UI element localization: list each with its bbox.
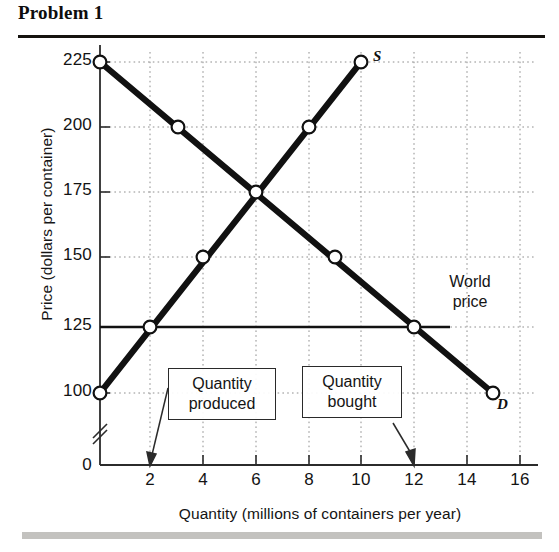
marker-supply-0-100: [94, 387, 107, 400]
figure-page: Problem 1: [0, 0, 559, 552]
supply-curve-label: S: [373, 48, 381, 65]
footer-bar: [22, 532, 542, 539]
demand-curve: [100, 62, 493, 393]
x-tick-2: 2: [133, 470, 167, 490]
quantity-produced-line2: produced: [175, 394, 269, 414]
marker-supply-4-150: [197, 251, 210, 264]
marker-demand-3-200: [172, 121, 185, 134]
marker-demand-9-150: [329, 251, 342, 264]
x-tick-8: 8: [292, 470, 326, 490]
x-tick-14: 14: [450, 470, 484, 490]
world-price-label: World price: [428, 272, 512, 312]
marker-supply-8-200: [303, 121, 316, 134]
x-tick-10: 10: [344, 470, 378, 490]
annotation-quantity-produced: Quantity produced: [168, 368, 276, 420]
x-tick-12: 12: [397, 470, 431, 490]
x-axis-title: Quantity (millions of containers per yea…: [100, 505, 540, 523]
supply-curve: [100, 62, 361, 393]
marker-supply-6-175: [250, 186, 263, 199]
marker-supply-10-225: [355, 56, 368, 69]
marker-demand-12-125: [408, 321, 421, 334]
quantity-bought-line1: Quantity: [309, 372, 395, 392]
world-price-line1: World: [428, 272, 512, 292]
annotation-quantity-bought: Quantity bought: [302, 366, 402, 418]
y-axis-ticks: [100, 62, 110, 393]
x-tick-16: 16: [503, 470, 537, 490]
marker-supply-2-125: [144, 321, 157, 334]
world-price-line2: price: [428, 292, 512, 312]
y-tick-225: 225: [30, 50, 92, 70]
marker-demand-0-225: [94, 56, 107, 69]
y-tick-125: 125: [30, 315, 92, 335]
leader-line-bought: [393, 423, 415, 466]
y-tick-0: 0: [30, 455, 92, 475]
demand-curve-label: D: [497, 396, 508, 413]
supply-demand-chart: Price (dollars per container) Quantity (…: [0, 0, 559, 552]
x-axis-ticks: [150, 455, 520, 465]
x-tick-4: 4: [186, 470, 220, 490]
y-tick-100: 100: [30, 381, 92, 401]
quantity-bought-line2: bought: [309, 392, 395, 412]
quantity-produced-line1: Quantity: [175, 374, 269, 394]
y-tick-175: 175: [30, 180, 92, 200]
y-tick-150: 150: [30, 245, 92, 265]
gridlines-horizontal: [100, 62, 534, 393]
x-tick-6: 6: [239, 470, 273, 490]
y-tick-200: 200: [30, 115, 92, 135]
